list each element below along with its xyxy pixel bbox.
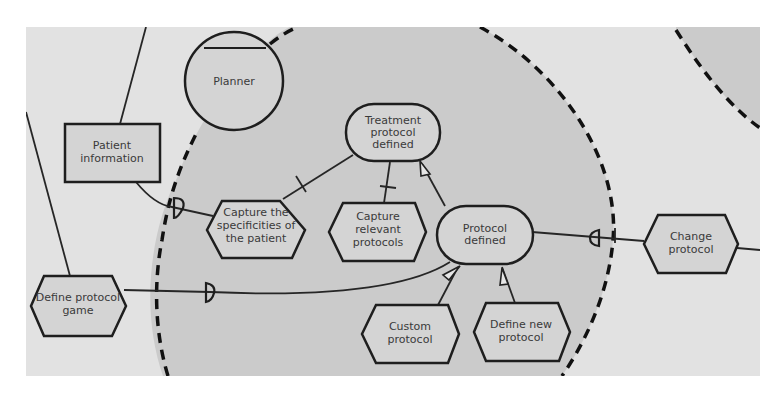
task-label-line3: the patient — [226, 232, 287, 245]
goal-label-line3: defined — [372, 138, 413, 151]
task-label-line2: protocol — [388, 333, 433, 346]
goal-protocol-defined[interactable]: Protocol defined — [437, 206, 533, 264]
resource-patient-information[interactable]: Patient information — [65, 124, 160, 182]
goal-model-diagram: Planner Patient information Treatment pr… — [0, 0, 781, 403]
task-label-line1: Change — [670, 230, 712, 243]
task-label-line2: game — [62, 304, 93, 317]
task-label-line1: Capture the — [223, 206, 289, 219]
task-label-line1: Custom — [389, 320, 431, 333]
resource-label-line2: information — [80, 152, 144, 165]
goal-label-line2: defined — [464, 234, 505, 247]
actor-label: Planner — [213, 75, 255, 88]
task-define-protocol-game[interactable]: Define protocol game — [31, 276, 126, 336]
task-label-line2: protocol — [669, 243, 714, 256]
task-custom-protocol[interactable]: Custom protocol — [362, 305, 459, 363]
task-change-protocol[interactable]: Change protocol — [644, 215, 738, 273]
task-label-line2: relevant — [355, 223, 401, 236]
task-label-line1: Define new — [490, 318, 552, 331]
task-label-line2: specificities of — [217, 219, 297, 232]
task-label-line1: Define protocol — [36, 291, 120, 304]
goal-treatment-protocol-defined[interactable]: Treatment protocol defined — [346, 104, 440, 161]
task-capture-relevant-protocols[interactable]: Capture relevant protocols — [329, 203, 426, 261]
task-label-line3: protocols — [353, 236, 404, 249]
resource-label-line1: Patient — [93, 139, 132, 152]
task-define-new-protocol[interactable]: Define new protocol — [474, 303, 570, 361]
task-label-line1: Capture — [356, 210, 400, 223]
task-label-line2: protocol — [499, 331, 544, 344]
actor-planner[interactable]: Planner — [185, 32, 283, 130]
